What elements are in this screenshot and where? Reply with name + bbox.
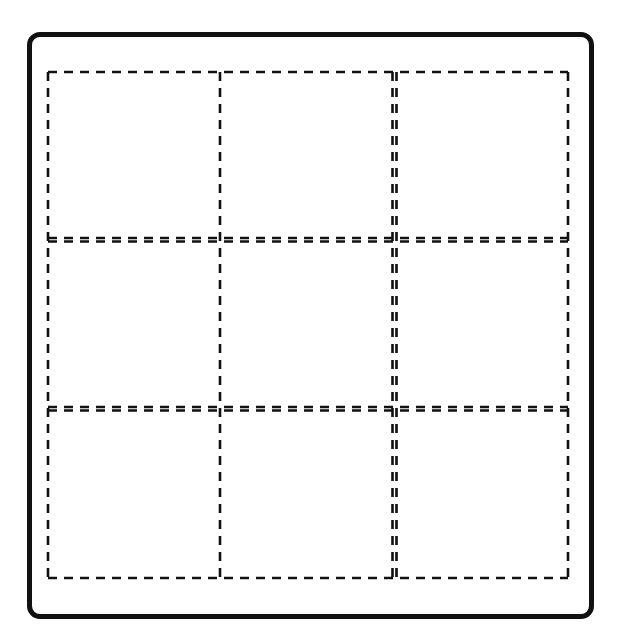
grid-cell-r1c1 [50,74,218,236]
grid-cell-r3c1 [50,413,218,576]
grid-cell-r2c2 [222,244,390,405]
grid-cell-r2c1 [50,244,218,405]
diagram-canvas [0,0,619,642]
grid-cell-r3c3 [399,413,566,576]
grid-cell-r2c3 [399,244,566,405]
dashed-grid [0,0,619,642]
grid-cell-r1c2 [222,74,390,236]
grid-cell-r3c2 [222,413,390,576]
grid-cell-r1c3 [399,74,566,236]
